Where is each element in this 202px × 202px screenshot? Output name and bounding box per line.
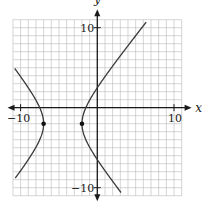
x-axis-arrow-right-icon (185, 105, 192, 111)
x-tick-label-neg10: −10 (7, 112, 30, 125)
hyperbola-graph: −10 10 10 −10 x y (0, 0, 202, 202)
y-axis-arrow-up-icon (94, 9, 100, 16)
y-tick-label-neg10: −10 (71, 182, 94, 195)
y-tick-label-10: 10 (80, 22, 94, 35)
x-tick-label-10: 10 (168, 112, 182, 125)
right-vertex-point (80, 121, 85, 126)
left-vertex-point (41, 121, 46, 126)
y-axis-label: y (93, 0, 101, 6)
x-axis-label: x (195, 101, 202, 115)
y-axis-arrow-down-icon (94, 194, 100, 201)
x-axis-arrow-left-icon (8, 105, 15, 111)
